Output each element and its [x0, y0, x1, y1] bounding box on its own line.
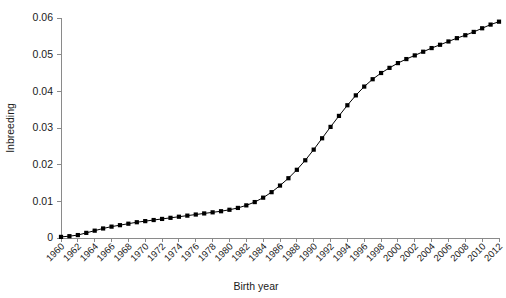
data-point-marker: [152, 218, 156, 222]
data-point-marker: [497, 20, 501, 24]
data-point-marker: [219, 209, 223, 213]
data-point-marker: [67, 234, 71, 238]
y-axis-ticks: [57, 18, 61, 238]
data-point-marker: [59, 235, 63, 239]
data-point-marker: [396, 61, 400, 65]
data-point-marker: [413, 53, 417, 57]
data-point-marker: [404, 57, 408, 61]
data-point-marker: [194, 212, 198, 216]
data-point-marker: [101, 226, 105, 230]
chart-container: 00.010.020.030.040.050.06 19601962196419…: [0, 0, 506, 298]
data-point-marker: [337, 114, 341, 118]
y-tick-label: 0.04: [33, 85, 54, 97]
data-point-marker: [261, 196, 265, 200]
data-point-marker: [278, 183, 282, 187]
y-tick-label: 0.01: [33, 195, 54, 207]
x-tick-label: 2012: [482, 241, 505, 264]
data-point-marker: [387, 66, 391, 70]
data-series-group: [59, 20, 501, 239]
data-point-marker: [354, 93, 358, 97]
data-point-marker: [312, 148, 316, 152]
y-axis-group: 00.010.020.030.040.050.06: [33, 11, 61, 243]
data-point-marker: [76, 233, 80, 237]
data-point-marker: [421, 50, 425, 54]
data-point-marker: [236, 206, 240, 210]
x-axis-group: 1960196219641966196819701972197419761978…: [44, 238, 505, 263]
y-tick-label: 0.06: [33, 11, 54, 23]
y-tick-label: 0.05: [33, 48, 54, 60]
data-point-marker: [320, 136, 324, 140]
series-markers-inbreeding: [59, 20, 501, 239]
data-point-marker: [463, 33, 467, 37]
inbreeding-line-chart: 00.010.020.030.040.050.06 19601962196419…: [0, 0, 506, 298]
data-point-marker: [371, 77, 375, 81]
data-point-marker: [345, 103, 349, 107]
data-point-marker: [438, 43, 442, 47]
data-point-marker: [379, 71, 383, 75]
data-point-marker: [168, 216, 172, 220]
data-point-marker: [480, 26, 484, 30]
data-point-marker: [455, 36, 459, 40]
data-point-marker: [244, 203, 248, 207]
data-point-marker: [118, 223, 122, 227]
y-axis-title: Inbreeding: [4, 103, 16, 153]
data-point-marker: [488, 23, 492, 27]
data-point-marker: [143, 219, 147, 223]
data-point-marker: [177, 215, 181, 219]
x-axis-tick-labels: 1960196219641966196819701972197419761978…: [44, 241, 505, 264]
data-point-marker: [135, 220, 139, 224]
data-point-marker: [84, 231, 88, 235]
data-point-marker: [430, 46, 434, 50]
data-point-marker: [211, 210, 215, 214]
data-point-marker: [446, 39, 450, 43]
x-axis-title: Birth year: [234, 280, 279, 292]
data-point-marker: [93, 229, 97, 233]
data-point-marker: [227, 208, 231, 212]
data-point-marker: [269, 190, 273, 194]
data-point-marker: [109, 225, 113, 229]
data-point-marker: [286, 176, 290, 180]
y-tick-label: 0.02: [33, 158, 54, 170]
data-point-marker: [295, 168, 299, 172]
data-point-marker: [160, 217, 164, 221]
data-point-marker: [328, 125, 332, 129]
data-point-marker: [362, 84, 366, 88]
series-line-inbreeding: [61, 22, 499, 237]
data-point-marker: [253, 200, 257, 204]
data-point-marker: [472, 30, 476, 34]
y-tick-label: 0.03: [33, 121, 54, 133]
data-point-marker: [185, 214, 189, 218]
y-tick-label: 0: [47, 231, 53, 243]
y-axis-tick-labels: 00.010.020.030.040.050.06: [33, 11, 54, 243]
data-point-marker: [303, 158, 307, 162]
data-point-marker: [202, 211, 206, 215]
data-point-marker: [126, 222, 130, 226]
